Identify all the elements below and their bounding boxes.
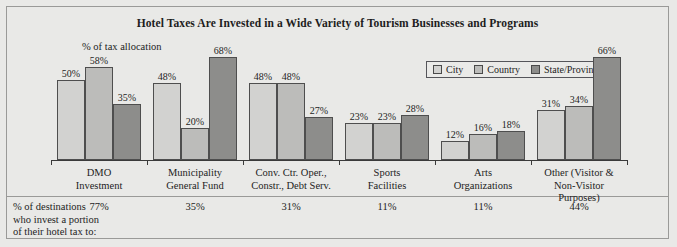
bar-city[interactable] xyxy=(57,80,85,160)
bar-city[interactable] xyxy=(345,123,373,160)
bar-value-label: 16% xyxy=(474,122,492,133)
bar-state-province[interactable] xyxy=(113,104,141,160)
category-label-line: Sports xyxy=(339,167,435,180)
bar-value-label: 27% xyxy=(310,105,328,116)
plot-area: 50%58%35%48%20%68%48%48%27%23%23%28%12%1… xyxy=(51,45,627,160)
bar-group: 23%23%28% xyxy=(339,45,435,160)
bar-country[interactable] xyxy=(565,106,593,160)
category-label: SportsFacilities xyxy=(339,167,435,192)
axis-tick xyxy=(339,160,340,165)
footer-caption-line: of their hotel tax to: xyxy=(13,226,99,239)
bar-city[interactable] xyxy=(249,83,277,160)
bar-city[interactable] xyxy=(153,83,181,160)
category-label-line: Constr., Debt Serv. xyxy=(243,180,339,193)
category-label-line: Investment xyxy=(51,180,147,193)
bar-column: 16% xyxy=(469,45,497,160)
category-label-line: Other (Visitor & xyxy=(531,167,627,180)
bar-value-label: 23% xyxy=(378,111,396,122)
category-label-line: Municipality xyxy=(147,167,243,180)
bar-value-label: 34% xyxy=(570,94,588,105)
bar-country[interactable] xyxy=(277,83,305,160)
category-label: Other (Visitor &Non-VisitorPurposes) xyxy=(531,167,627,205)
bar-group: 31%34%66% xyxy=(531,45,627,160)
category-label: Conv. Ctr. Oper.,Constr., Debt Serv. xyxy=(243,167,339,192)
bar-value-label: 66% xyxy=(598,45,616,56)
bar-value-label: 12% xyxy=(446,129,464,140)
bar-column: 66% xyxy=(593,45,621,160)
axis-tick xyxy=(51,160,52,165)
footer-caption-line: who invest a portion xyxy=(13,214,99,227)
footer-percentage: 31% xyxy=(243,201,339,212)
bar-column: 12% xyxy=(441,45,469,160)
bar-city[interactable] xyxy=(441,141,469,160)
bar-column: 18% xyxy=(497,45,525,160)
bar-column: 48% xyxy=(153,45,181,160)
bar-city[interactable] xyxy=(537,110,565,160)
bar-state-province[interactable] xyxy=(305,117,333,160)
bar-country[interactable] xyxy=(181,128,209,160)
bar-value-label: 58% xyxy=(90,55,108,66)
bar-country[interactable] xyxy=(373,123,401,160)
bar-value-label: 20% xyxy=(186,116,204,127)
category-label-line: Organizations xyxy=(435,180,531,193)
axis-tick xyxy=(627,160,628,165)
bar-value-label: 68% xyxy=(214,45,232,56)
bar-column: 50% xyxy=(57,45,85,160)
bar-group: 48%20%68% xyxy=(147,45,243,160)
bar-column: 31% xyxy=(537,45,565,160)
bar-value-label: 23% xyxy=(350,111,368,122)
bar-country[interactable] xyxy=(85,67,113,160)
chart-frame: Hotel Taxes Are Invested in a Wide Varie… xyxy=(6,6,669,239)
chart-title: Hotel Taxes Are Invested in a Wide Varie… xyxy=(7,17,668,29)
bar-state-province[interactable] xyxy=(401,115,429,160)
footer-percentage: 44% xyxy=(531,201,627,212)
footer-percentage: 11% xyxy=(435,201,531,212)
axis-tick xyxy=(243,160,244,165)
bar-column: 23% xyxy=(373,45,401,160)
axis-tick xyxy=(531,160,532,165)
bar-column: 35% xyxy=(113,45,141,160)
bar-state-province[interactable] xyxy=(497,131,525,160)
bar-value-label: 48% xyxy=(282,71,300,82)
category-label-line: Non-Visitor xyxy=(531,180,627,193)
bar-value-label: 18% xyxy=(502,119,520,130)
axis-tick xyxy=(147,160,148,165)
bar-column: 23% xyxy=(345,45,373,160)
bar-value-label: 35% xyxy=(118,92,136,103)
bar-value-label: 31% xyxy=(542,98,560,109)
bar-value-label: 48% xyxy=(158,71,176,82)
category-label-line: DMO xyxy=(51,167,147,180)
bar-column: 20% xyxy=(181,45,209,160)
bar-column: 27% xyxy=(305,45,333,160)
bar-value-label: 28% xyxy=(406,103,424,114)
category-label-line: General Fund xyxy=(147,180,243,193)
category-label-line: Conv. Ctr. Oper., xyxy=(243,167,339,180)
bar-group: 48%48%27% xyxy=(243,45,339,160)
category-label: DMOInvestment xyxy=(51,167,147,192)
bar-column: 48% xyxy=(277,45,305,160)
bar-state-province[interactable] xyxy=(593,57,621,160)
category-label-line: Arts xyxy=(435,167,531,180)
bar-group: 50%58%35% xyxy=(51,45,147,160)
bar-column: 58% xyxy=(85,45,113,160)
axis-tick xyxy=(435,160,436,165)
footer-percentage: 35% xyxy=(147,201,243,212)
bar-column: 28% xyxy=(401,45,429,160)
bar-state-province[interactable] xyxy=(209,57,237,160)
bar-column: 68% xyxy=(209,45,237,160)
bar-column: 34% xyxy=(565,45,593,160)
bar-country[interactable] xyxy=(469,134,497,160)
category-label-line: Facilities xyxy=(339,180,435,193)
bar-value-label: 48% xyxy=(254,71,272,82)
category-label: MunicipalityGeneral Fund xyxy=(147,167,243,192)
category-label: ArtsOrganizations xyxy=(435,167,531,192)
bar-column: 48% xyxy=(249,45,277,160)
footer-percentage: 77% xyxy=(51,201,147,212)
bar-group: 12%16%18% xyxy=(435,45,531,160)
footer-percentage: 11% xyxy=(339,201,435,212)
bar-value-label: 50% xyxy=(62,68,80,79)
